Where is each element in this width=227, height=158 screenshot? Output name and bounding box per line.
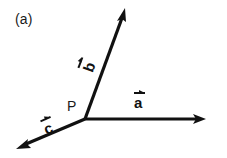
vector-diagram-figure: (a) P a b c [0, 0, 227, 158]
vector-a-group [85, 114, 206, 124]
vector-label-a: a [134, 90, 142, 110]
point-label-p: P [67, 99, 76, 113]
vector-c-shaft [26, 119, 85, 144]
vector-canvas [0, 0, 227, 158]
vector-arrow-accent-a [134, 90, 142, 95]
vector-label-a-glyph: a [134, 95, 142, 110]
panel-label: (a) [15, 12, 33, 26]
